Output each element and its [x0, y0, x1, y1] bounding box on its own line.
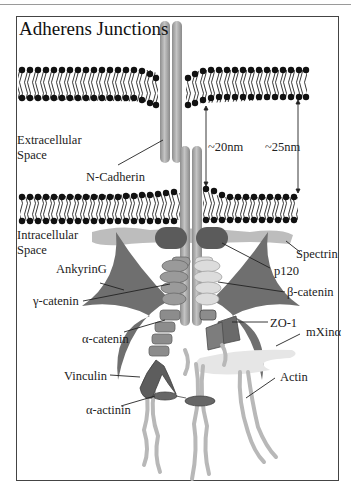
intracellular-label-2: Space: [17, 243, 47, 257]
alpha-catenin-label: α-catenin: [82, 332, 129, 346]
inner-gap-label: ~20nm: [208, 140, 243, 154]
ankyring-label: AnkyrinG: [56, 262, 107, 276]
beta-catenin: [194, 257, 222, 305]
intracellular-label-1: Intracellular: [17, 228, 78, 242]
beta-catenin-label: β-catenin: [287, 285, 334, 299]
spectrin-label: Spectrin: [296, 247, 338, 261]
zo-1-label: ZO-1: [270, 316, 297, 330]
mxin-alpha-label: mXinα: [306, 325, 341, 339]
alpha-actinin: [153, 392, 215, 406]
alpha-actinin-label: α-actinin: [86, 403, 131, 417]
ankyring-left: [82, 232, 170, 380]
extracellular-label-1: Extracellular: [17, 133, 82, 147]
vinculin-label: Vinculin: [64, 369, 107, 383]
gamma-catenin-label: γ-catenin: [33, 294, 79, 308]
p120-right: [196, 227, 228, 249]
extracellular-label-2: Space: [17, 148, 47, 162]
adherens-junction-diagram: [0, 0, 351, 488]
actin-label: Actin: [280, 370, 308, 384]
p120-label: p120: [274, 264, 299, 278]
alpha-catenin: [149, 310, 180, 356]
outer-gap-label: ~25nm: [265, 140, 300, 154]
n-cadherin-label: N-Cadherin: [86, 170, 145, 184]
zo-1: [200, 310, 240, 350]
diagram-title: Adherens Junctions: [19, 18, 168, 40]
p120-left: [155, 227, 187, 249]
lower-membrane: [19, 186, 298, 224]
n-cadherin-upper: [160, 21, 182, 163]
